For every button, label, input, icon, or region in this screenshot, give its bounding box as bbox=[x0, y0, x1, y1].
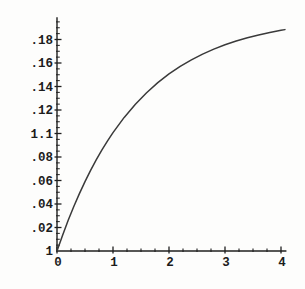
data-curve bbox=[57, 30, 285, 251]
y-tick-label: .04 bbox=[30, 198, 53, 212]
axes-layer bbox=[56, 17, 286, 252]
y-tick-label: .16 bbox=[30, 57, 53, 71]
x-tick-label: 4 bbox=[278, 256, 286, 270]
y-tick-label: .12 bbox=[30, 104, 53, 118]
y-tick-label: .18 bbox=[30, 34, 53, 48]
x-tick-label: 2 bbox=[166, 256, 174, 270]
plot-svg: 01234.18.16.14.121.1.08.06.04.021 bbox=[0, 0, 305, 289]
y-tick-label: .02 bbox=[30, 222, 53, 236]
x-tick-label: 0 bbox=[54, 256, 62, 270]
ticks-layer bbox=[55, 22, 282, 254]
y-tick-label: .14 bbox=[30, 81, 53, 95]
y-tick-label: 1 bbox=[45, 245, 53, 259]
curve-layer bbox=[57, 30, 285, 251]
x-tick-label: 3 bbox=[222, 256, 230, 270]
y-tick-label: .06 bbox=[30, 175, 53, 189]
y-tick-label: 1.1 bbox=[30, 128, 53, 142]
labels-layer: 01234.18.16.14.121.1.08.06.04.021 bbox=[30, 34, 286, 271]
figure: 01234.18.16.14.121.1.08.06.04.021 bbox=[0, 0, 305, 289]
y-tick-label: .08 bbox=[30, 151, 53, 165]
x-tick-label: 1 bbox=[110, 256, 118, 270]
